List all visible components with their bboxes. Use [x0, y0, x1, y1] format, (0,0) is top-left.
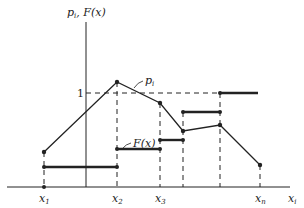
pmf-label: pi	[145, 74, 154, 88]
y-axis-label: pi, F(x)	[67, 6, 106, 20]
level-one-label: 1	[77, 87, 84, 100]
x-tick-x2: x2	[112, 192, 123, 206]
x1-axis-point	[42, 185, 46, 189]
x-axis-label: xi	[288, 192, 296, 206]
cdf-label: F(x)	[132, 137, 155, 150]
x-tick-x3: x3	[155, 192, 166, 206]
pmf-cdf-diagram: pi, F(x) 1 pi F(x) x1 x2 x3 xn xi	[0, 0, 304, 208]
x-tick-x1: x1	[39, 192, 50, 206]
pmf-label-pointer	[134, 81, 143, 88]
x-tick-xn: xn	[255, 192, 266, 206]
